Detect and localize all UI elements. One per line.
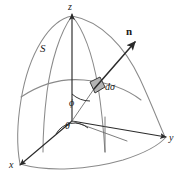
y-axis-line <box>72 121 166 137</box>
meridian-x <box>18 16 72 164</box>
figure-canvas <box>0 0 184 179</box>
normal-vector-label: n <box>126 26 132 37</box>
polar-angle-arc-phi <box>72 94 90 101</box>
x-axis-label: x <box>9 160 13 170</box>
polar-angle-label: ϕ <box>69 98 74 108</box>
z-axis-label: z <box>68 2 72 12</box>
equator-front-arc <box>20 137 166 169</box>
latitude-upper <box>21 80 141 100</box>
y-axis-label: y <box>169 133 173 143</box>
area-element-label: dσ <box>105 82 115 92</box>
surface-label: S <box>40 43 46 54</box>
azimuthal-angle-label: θ <box>65 121 70 131</box>
meridian-y <box>72 16 165 137</box>
azimuthal-angle-arc-theta <box>56 123 88 134</box>
spherical-surface-element-figure: z n S dσ ϕ θ y x <box>0 0 184 179</box>
radius-to-patch <box>72 86 96 121</box>
